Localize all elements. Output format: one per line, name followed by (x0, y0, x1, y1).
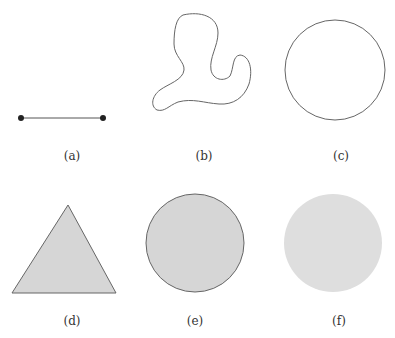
panel-c-circle (285, 20, 385, 120)
panel-d-label: (d) (63, 314, 80, 328)
panel-f-label: (f) (332, 314, 346, 328)
endpoint-left (18, 115, 24, 121)
panel-c-label: (c) (333, 149, 349, 163)
panel-b-label: (b) (195, 149, 212, 163)
figure-canvas (0, 0, 395, 338)
endpoint-right (100, 115, 106, 121)
panel-d-triangle (12, 205, 116, 293)
panel-b-closed-curve (153, 14, 251, 111)
panel-a-segment (18, 115, 106, 121)
panel-e-label: (e) (187, 314, 203, 328)
panel-a-label: (a) (64, 149, 81, 163)
panel-f-disk (284, 194, 382, 292)
panel-e-disk (146, 194, 244, 292)
